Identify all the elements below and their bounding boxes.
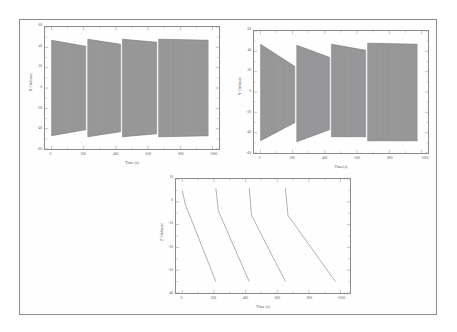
xtick-label: 800 [178, 153, 183, 157]
y-ordinate-panel: Y-Ordinate 60 40 20 0 -20 -40 -60 0 [229, 24, 438, 172]
z-ordinate-y-ticklabels: 10 0 -10 -20 -30 -40 [159, 172, 173, 316]
ytick-label: 0 [249, 90, 251, 94]
x-ordinate-y-ticklabels: 60 40 20 0 -20 -40 -60 [28, 20, 42, 168]
x-ordinate-trace [45, 27, 219, 149]
y-ordinate-trace [254, 31, 428, 153]
z-ordinate-panel: Z-Ordinate 10 0 -10 -20 -30 -40 0 200 40… [151, 172, 360, 316]
ytick-label: 60 [247, 28, 251, 32]
xtick-label: 800 [307, 297, 312, 301]
xtick-label: 400 [322, 157, 327, 161]
xtick-label: 800 [387, 157, 392, 161]
ytick-label: -60 [246, 152, 251, 156]
xtick-label: 400 [113, 153, 118, 157]
xtick-label: 1000 [210, 153, 217, 157]
xtick-label: 400 [243, 297, 248, 301]
x-ordinate-plot-area [44, 26, 220, 150]
ytick-label: -40 [37, 128, 42, 132]
ytick-label: 0 [171, 199, 173, 203]
ytick-label: -60 [37, 148, 42, 152]
xtick-label: 1000 [421, 157, 428, 161]
xtick-label: 200 [289, 157, 294, 161]
ytick-label: -20 [168, 246, 173, 250]
xtick-label: 0 [50, 153, 52, 157]
ytick-label: 40 [247, 49, 251, 53]
x-ordinate-panel: X-Ordinate 60 40 20 0 -20 -40 -60 [20, 20, 229, 168]
xtick-label: 600 [275, 297, 280, 301]
y-ordinate-x-axis-title: Time(s) [253, 165, 429, 169]
z-ordinate-trace [176, 179, 350, 293]
y-ordinate-y-ticklabels: 60 40 20 0 -20 -40 -60 [237, 24, 251, 172]
z-ordinate-x-axis-title: Time (s) [175, 305, 351, 309]
y-ordinate-plot-area [253, 30, 429, 154]
xtick-label: 200 [80, 153, 85, 157]
ytick-label: -10 [168, 223, 173, 227]
ytick-label: -20 [37, 107, 42, 111]
ytick-label: 10 [169, 176, 173, 180]
xtick-label: 1000 [338, 297, 345, 301]
ytick-label: -30 [168, 269, 173, 273]
ytick-label: -20 [246, 111, 251, 115]
xtick-label: 600 [146, 153, 151, 157]
ytick-label: -40 [246, 132, 251, 136]
z-ordinate-plot-area [175, 178, 351, 294]
xtick-label: 0 [259, 157, 261, 161]
figure-outer-frame: X-Ordinate 60 40 20 0 -20 -40 -60 [19, 19, 437, 315]
ytick-label: 60 [38, 24, 42, 28]
ytick-label: -40 [168, 292, 173, 296]
ytick-label: 0 [40, 86, 42, 90]
ytick-label: 40 [38, 45, 42, 49]
x-ordinate-x-axis-title: Time (s) [44, 161, 220, 165]
ytick-label: 20 [247, 70, 251, 74]
ytick-label: 20 [38, 66, 42, 70]
xtick-label: 600 [355, 157, 360, 161]
xtick-label: 200 [211, 297, 216, 301]
xtick-label: 0 [180, 297, 182, 301]
